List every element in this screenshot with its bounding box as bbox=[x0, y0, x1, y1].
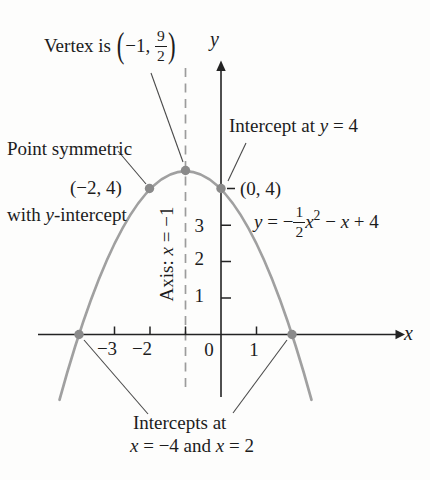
axis-label-var: x bbox=[156, 247, 177, 255]
fraction-denominator: 2 bbox=[157, 47, 165, 64]
axis-label-post: = −1 bbox=[156, 207, 177, 247]
y-intercept-annotation: Intercept at y = 4 bbox=[229, 115, 358, 137]
vertex-point bbox=[181, 166, 190, 175]
intercepts-tail: = 2 bbox=[224, 435, 254, 456]
vertex-x-coordinate: −1, bbox=[125, 35, 155, 57]
y-intercept-note-var: y bbox=[320, 115, 328, 136]
axis-label-pre: Axis: bbox=[156, 255, 177, 301]
intercepts-var2: x bbox=[216, 435, 224, 456]
symmetric-line2-var: y bbox=[46, 204, 54, 225]
x-axis-ticks bbox=[115, 327, 257, 335]
x-tick-label-neg2: −2 bbox=[127, 338, 157, 360]
symmetric-annotation-line1: Point symmetric bbox=[7, 138, 132, 160]
equation-label: y = − 1 2 x 2 − x + 4 bbox=[254, 201, 379, 243]
y-intercept-note-post: = 4 bbox=[328, 115, 358, 136]
equation-fraction: 1 2 bbox=[293, 204, 305, 240]
y-intercept-point bbox=[216, 184, 225, 193]
x-intercepts-annotation-line2: x = −4 and x = 2 bbox=[130, 435, 254, 457]
symmetric-point bbox=[145, 184, 154, 193]
y-intercept-note-pre: Intercept at bbox=[229, 115, 320, 136]
equation-tail: + 4 bbox=[349, 211, 379, 233]
equation-equals: = − bbox=[262, 211, 293, 233]
y-tick-label-2: 2 bbox=[188, 248, 204, 270]
x-tick-label-0: 0 bbox=[194, 339, 224, 361]
y-tick-label-3: 3 bbox=[188, 215, 204, 237]
symmetric-point-label: (−2, 4) bbox=[70, 177, 122, 199]
fraction-numerator: 9 bbox=[155, 28, 167, 46]
vertex-annotation: Vertex is ( −1, 9 2 ) bbox=[44, 21, 176, 71]
equation-fraction-denominator: 2 bbox=[295, 223, 303, 240]
vertex-y-fraction: 9 2 bbox=[155, 28, 167, 64]
vertex-annotation-text: Vertex is bbox=[44, 35, 116, 57]
vertex-leader-line bbox=[151, 73, 183, 162]
equation-x-squared-var: x bbox=[305, 211, 313, 233]
equation-mid: − bbox=[320, 211, 340, 233]
x-axis-label: x bbox=[404, 322, 413, 344]
x-intercept-right-point bbox=[287, 330, 296, 339]
equation-lhs: y bbox=[254, 211, 262, 233]
equation-linear-var: x bbox=[341, 211, 349, 233]
symmetric-line2-pre: with bbox=[7, 204, 46, 225]
y-intercept-leader-line bbox=[228, 143, 246, 181]
equation-fraction-numerator: 1 bbox=[293, 204, 305, 222]
intercepts-mid: = −4 and bbox=[138, 435, 215, 456]
symmetric-line2-post: -intercept bbox=[54, 204, 127, 225]
axis-of-symmetry-label: Axis: x = −1 bbox=[156, 196, 178, 312]
y-axis-arrowhead bbox=[216, 61, 225, 72]
x-intercepts-annotation-line1: Intercepts at bbox=[133, 412, 226, 434]
x-tick-label-neg3: −3 bbox=[92, 338, 122, 360]
y-tick-label-1: 1 bbox=[188, 285, 204, 307]
parabola-figure: Vertex is ( −1, 9 2 ) y x Point symmetri… bbox=[0, 0, 430, 480]
symmetric-annotation-line2: with y-intercept bbox=[7, 204, 132, 226]
y-intercept-point-label: (0, 4) bbox=[240, 178, 281, 200]
x-intercept-left-point bbox=[74, 330, 83, 339]
equation-exponent: 2 bbox=[314, 205, 321, 227]
y-axis-label: y bbox=[210, 28, 219, 50]
x-tick-label-1: 1 bbox=[239, 339, 269, 361]
open-paren: ( bbox=[116, 28, 126, 64]
close-paren: ) bbox=[167, 28, 177, 64]
